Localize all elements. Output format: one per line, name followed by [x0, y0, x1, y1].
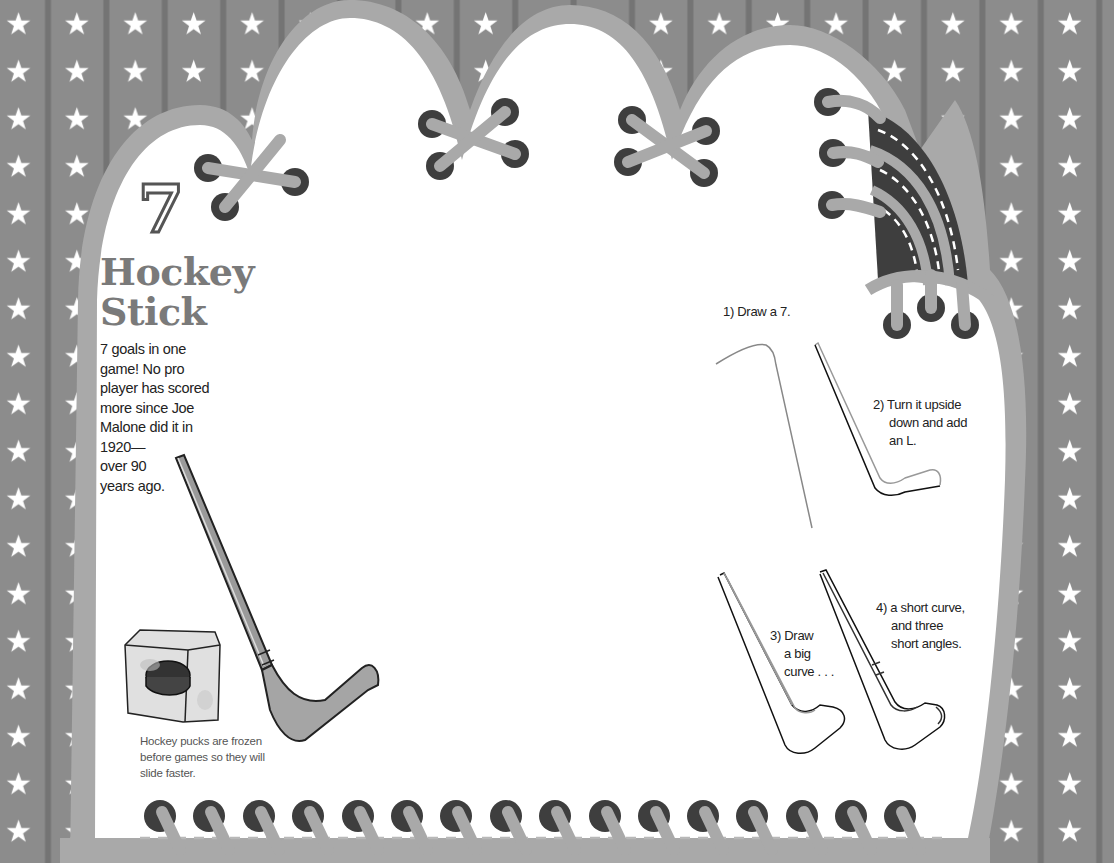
fact-text: 7 goals in one game! No pro player has s… — [100, 340, 210, 496]
puck-caption: Hockey pucks are frozen before games so … — [140, 733, 290, 781]
step-4-label: 4) a short curve, and three short angles… — [876, 599, 965, 653]
title-line: Stick — [100, 292, 254, 332]
step-2-label: 2) Turn it upside down and add an L. — [873, 396, 967, 450]
step-line: 4) a short curve, — [876, 599, 965, 617]
fact-line: 1920— — [100, 438, 210, 458]
fact-line: player has scored — [100, 379, 210, 399]
fact-line: game! No pro — [100, 360, 210, 380]
step-line: and three — [876, 617, 965, 635]
step-line: curve . . . — [770, 663, 834, 681]
fact-line: Malone did it in — [100, 418, 210, 438]
step-line: short angles. — [876, 635, 965, 653]
fact-line: over 90 — [100, 457, 210, 477]
page-title: Hockey Stick — [100, 252, 254, 332]
step-line: a big — [770, 645, 834, 663]
activity-number: 7 — [138, 176, 184, 242]
step-1-label: 1) Draw a 7. — [723, 303, 790, 321]
fact-line: 7 goals in one — [100, 340, 210, 360]
fact-line: years ago. — [100, 477, 210, 497]
glove-panel-fill — [95, 18, 1006, 838]
caption-line: Hockey pucks are frozen — [140, 733, 290, 749]
caption-line: slide faster. — [140, 765, 290, 781]
step-line: 1) Draw a 7. — [723, 303, 790, 321]
title-line: Hockey — [100, 252, 254, 292]
caption-line: before games so they will — [140, 749, 290, 765]
step-line: 2) Turn it upside — [873, 396, 967, 414]
frozen-puck-icon — [125, 630, 220, 722]
step-line: 3) Draw — [770, 627, 834, 645]
step-3-label: 3) Draw a big curve . . . — [770, 627, 834, 681]
step-line: an L. — [873, 432, 967, 450]
fact-line: more since Joe — [100, 399, 210, 419]
step-line: down and add — [873, 414, 967, 432]
